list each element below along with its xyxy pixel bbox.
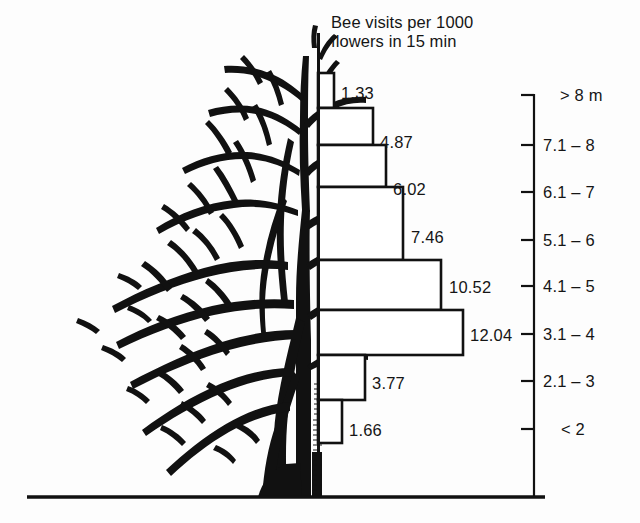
axis-label-61-7: 6.1 – 7 <box>543 183 595 202</box>
bar-61-7 <box>318 145 386 187</box>
axis-label-71-8: 7.1 – 8 <box>543 136 595 155</box>
bar-lt2 <box>318 400 342 443</box>
axis-label-gt8: > 8 m <box>560 86 603 105</box>
chart-title: Bee visits per 1000 flowers in 15 min <box>331 13 473 52</box>
height-axis-ticks <box>521 95 534 429</box>
bar-41-5 <box>318 260 441 310</box>
bar-value-41-5: 10.52 <box>449 278 491 297</box>
chart-title-line-1: Bee visits per 1000 <box>331 13 473 31</box>
axis-label-21-3: 2.1 – 3 <box>543 372 595 391</box>
axis-label-lt2: < 2 <box>561 420 585 439</box>
chart-title-line-2: flowers in 15 min <box>331 32 457 50</box>
bar-gt8 <box>318 73 334 108</box>
bar-value-21-3: 3.77 <box>372 374 405 393</box>
bar-value-gt8: 1.33 <box>341 84 374 103</box>
bar-value-lt2: 1.66 <box>349 421 382 440</box>
bar-21-3 <box>318 355 365 400</box>
bar-value-61-7: 6.02 <box>393 180 426 199</box>
bee-visit-height-figure: Bee visits per 1000 flowers in 15 min 1.… <box>0 0 640 523</box>
figure-canvas <box>0 0 640 523</box>
bar-value-51-6: 7.46 <box>411 228 444 247</box>
axis-label-41-5: 4.1 – 5 <box>543 277 595 296</box>
bar-value-71-8: 4.87 <box>380 133 413 152</box>
bar-value-31-4: 12.04 <box>470 326 512 345</box>
bar-51-6 <box>318 187 403 260</box>
height-axis <box>521 94 534 497</box>
axis-label-31-4: 3.1 – 4 <box>543 325 595 344</box>
bar-31-4 <box>318 310 463 355</box>
axis-label-51-6: 5.1 – 6 <box>543 231 595 250</box>
bar-71-8 <box>318 108 373 145</box>
